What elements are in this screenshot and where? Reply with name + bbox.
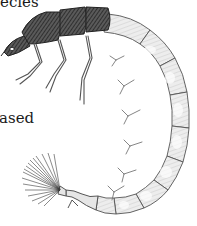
head [1,36,30,56]
thoracic-plates [22,7,110,44]
tail-fan [22,153,60,206]
larva-illustration [0,0,197,226]
tail [58,186,98,210]
gill-tufts [108,56,142,200]
